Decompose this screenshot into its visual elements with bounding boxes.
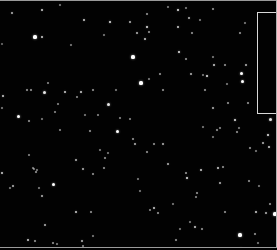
star bbox=[30, 89, 32, 91]
star bbox=[212, 8, 214, 10]
star bbox=[167, 6, 169, 8]
star bbox=[2, 95, 5, 98]
star bbox=[217, 167, 220, 170]
star bbox=[153, 207, 156, 210]
star bbox=[255, 150, 257, 152]
star bbox=[34, 240, 36, 242]
star bbox=[265, 212, 267, 214]
frame-border-top bbox=[0, 0, 277, 1]
star bbox=[238, 233, 241, 236]
star bbox=[236, 131, 238, 133]
star bbox=[224, 64, 226, 66]
star bbox=[76, 96, 78, 98]
star bbox=[227, 102, 229, 104]
star bbox=[149, 209, 151, 211]
star bbox=[249, 147, 251, 149]
star bbox=[204, 89, 206, 91]
star bbox=[41, 9, 43, 11]
star bbox=[27, 239, 30, 242]
star bbox=[240, 72, 243, 75]
star bbox=[35, 171, 37, 173]
star bbox=[234, 119, 237, 122]
star bbox=[177, 26, 180, 29]
star bbox=[212, 107, 214, 109]
star bbox=[188, 17, 190, 19]
star bbox=[146, 151, 148, 153]
star bbox=[9, 187, 11, 189]
star bbox=[224, 211, 226, 213]
star bbox=[80, 91, 83, 94]
star bbox=[41, 195, 43, 197]
star bbox=[189, 221, 191, 223]
star bbox=[12, 185, 14, 187]
star bbox=[190, 73, 192, 75]
star bbox=[103, 34, 105, 36]
star bbox=[177, 9, 180, 12]
star bbox=[52, 242, 54, 244]
star bbox=[172, 203, 174, 205]
star bbox=[1, 107, 3, 109]
star bbox=[254, 233, 256, 235]
star bbox=[92, 89, 94, 91]
star bbox=[139, 81, 142, 84]
star bbox=[104, 157, 106, 159]
star bbox=[28, 154, 30, 156]
star bbox=[103, 167, 105, 169]
star bbox=[82, 168, 84, 170]
star bbox=[43, 91, 46, 94]
star bbox=[238, 127, 240, 129]
star bbox=[129, 21, 131, 23]
star bbox=[137, 178, 139, 180]
star bbox=[33, 35, 36, 38]
star bbox=[200, 169, 203, 172]
star bbox=[64, 91, 67, 94]
star bbox=[144, 38, 147, 41]
star bbox=[185, 58, 187, 60]
star bbox=[268, 146, 271, 149]
star bbox=[241, 80, 244, 83]
star bbox=[148, 31, 150, 33]
star bbox=[47, 82, 49, 84]
star-field-image bbox=[0, 0, 277, 250]
star bbox=[202, 126, 204, 128]
star bbox=[153, 143, 155, 145]
star bbox=[202, 74, 204, 76]
star bbox=[116, 130, 119, 133]
star bbox=[262, 142, 264, 144]
star bbox=[131, 55, 134, 58]
star bbox=[139, 190, 141, 192]
star bbox=[75, 211, 78, 214]
star bbox=[175, 239, 177, 241]
star bbox=[38, 187, 40, 189]
star bbox=[59, 4, 61, 6]
star bbox=[162, 89, 164, 91]
star bbox=[92, 235, 94, 237]
frame-border-bottom bbox=[0, 247, 277, 248]
star bbox=[194, 226, 197, 229]
star bbox=[244, 22, 246, 24]
star bbox=[157, 212, 159, 214]
star bbox=[44, 224, 46, 226]
star bbox=[167, 163, 169, 165]
star bbox=[179, 228, 181, 230]
star bbox=[239, 32, 241, 34]
star bbox=[162, 143, 164, 145]
star bbox=[219, 182, 221, 184]
star bbox=[213, 64, 216, 67]
star bbox=[81, 240, 83, 242]
star bbox=[248, 180, 250, 182]
star bbox=[11, 12, 13, 14]
star bbox=[56, 243, 58, 245]
star bbox=[83, 19, 86, 22]
star bbox=[59, 129, 61, 131]
selection-rectangle bbox=[257, 12, 277, 114]
star bbox=[115, 89, 117, 91]
star bbox=[1, 172, 4, 175]
star bbox=[267, 134, 270, 137]
star bbox=[89, 130, 91, 132]
star bbox=[107, 152, 109, 154]
star bbox=[107, 103, 110, 106]
star bbox=[222, 166, 224, 168]
star bbox=[258, 185, 260, 187]
star bbox=[129, 118, 131, 120]
